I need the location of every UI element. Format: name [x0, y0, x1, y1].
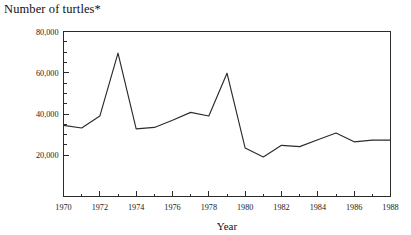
- data-series-line: [64, 53, 391, 157]
- x-tick-label: 1984: [310, 203, 326, 212]
- plot-frame: [64, 32, 391, 197]
- y-tick-label: 80,000: [36, 28, 59, 37]
- y-tick-label: 40,000: [36, 110, 59, 119]
- x-tick-label: 1970: [55, 203, 71, 212]
- chart-figure: Number of turtles* 20,00040,00060,00080,…: [0, 0, 411, 235]
- y-axis-ticks: [64, 32, 70, 156]
- y-axis-tick-labels: 20,00040,00060,00080,000: [36, 28, 59, 161]
- x-tick-label: 1974: [128, 203, 144, 212]
- x-tick-label: 1978: [201, 203, 217, 212]
- x-tick-label: 1988: [382, 203, 398, 212]
- x-tick-label: 1982: [273, 203, 289, 212]
- x-tick-label: 1980: [237, 203, 253, 212]
- y-tick-label: 60,000: [36, 69, 59, 78]
- y-tick-label: 20,000: [36, 151, 59, 160]
- x-axis-ticks: [64, 191, 391, 197]
- x-axis-tick-labels: 1970197219741976197819801982198419861988: [55, 203, 398, 212]
- x-tick-label: 1986: [346, 203, 362, 212]
- x-tick-label: 1976: [164, 203, 180, 212]
- x-axis-title: Year: [217, 220, 238, 232]
- turtle-population-line-chart: 20,00040,00060,00080,000 197019721974197…: [0, 0, 411, 235]
- x-tick-label: 1972: [92, 203, 108, 212]
